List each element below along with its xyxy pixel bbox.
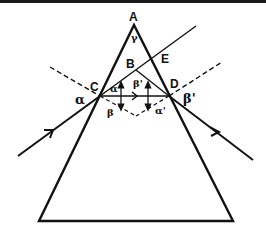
label-beta-inner: β <box>107 107 114 118</box>
label-alpha-inner: α <box>110 83 118 94</box>
label-gamma: γ <box>131 32 138 43</box>
label-E: E <box>161 52 169 66</box>
normal-at-C-inner <box>100 96 136 116</box>
label-beta-prime-outer: β' <box>183 91 196 106</box>
label-beta-prime-inner: β' <box>133 78 143 89</box>
label-alpha-prime: α' <box>155 105 166 116</box>
label-D: D <box>170 77 179 91</box>
label-A: A <box>129 10 138 24</box>
prism-diagram: A γ B E C D α α β β' α' β' <box>0 0 266 236</box>
label-C: C <box>90 80 99 94</box>
incident-ray <box>18 96 100 156</box>
label-alpha-outer: α <box>75 92 85 107</box>
label-B: B <box>126 57 135 71</box>
